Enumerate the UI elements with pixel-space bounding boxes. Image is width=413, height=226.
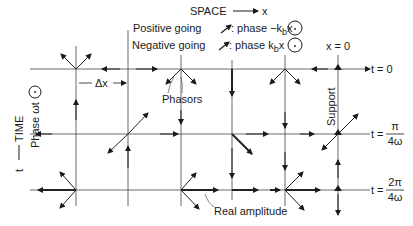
negative-going-label: Negative going — [132, 39, 205, 51]
t2-denominator: 4ω — [388, 191, 403, 203]
delta-x-label: Δx — [95, 77, 108, 89]
t2-label-prefix: t = — [371, 184, 384, 196]
space-axis-label: x — [262, 5, 268, 17]
support-label: Support — [325, 87, 337, 126]
t1-label-prefix: t = — [371, 128, 384, 140]
phasors-t2 — [38, 172, 342, 215]
t1-denominator: 4ω — [388, 135, 403, 147]
phasor-sample-icon — [221, 25, 231, 33]
standing-wave-phasor-diagram: SPACE x Positive going : phase −kbx Nega… — [0, 0, 413, 226]
delta-x-marker: Δx — [79, 77, 126, 89]
header-legend: SPACE x Positive going : phase −kbx Nega… — [132, 5, 350, 54]
t0-label: t = 0 — [371, 63, 393, 75]
negative-phase-label: : phase kbx — [229, 39, 285, 54]
time-axis-label: t TIME Phase ωt — [13, 86, 41, 172]
t1-numerator: π — [391, 120, 399, 132]
phasors-t0 — [61, 54, 342, 96]
time-row-labels: t = 0 t = π 4ω t = 2π 4ω — [371, 63, 404, 203]
phasors-t1 — [36, 113, 358, 178]
time-label: TIME — [13, 116, 25, 142]
t2-numerator: 2π — [388, 176, 402, 188]
counterclockwise-rotation-icon — [288, 38, 302, 52]
positive-going-label: Positive going — [133, 22, 202, 34]
space-label: SPACE — [190, 5, 226, 17]
support-icon — [334, 64, 342, 70]
real-amplitude-label: Real amplitude — [214, 205, 287, 217]
x-zero-label: x = 0 — [326, 40, 350, 52]
space-grid — [30, 30, 370, 212]
phase-omega-t-label: Phase ωt — [29, 102, 41, 148]
phasor-sample-icon — [219, 42, 229, 50]
t-label: t — [13, 169, 25, 172]
phasors-label: Phasors — [162, 93, 203, 105]
positive-phase-label: : phase −kbx — [231, 22, 293, 37]
